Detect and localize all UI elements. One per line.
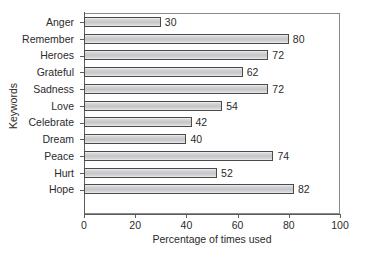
bar[interactable] — [84, 151, 273, 161]
x-axis-tick-label: 0 — [69, 219, 99, 232]
x-axis-tick-mark — [289, 214, 290, 218]
bar-row: 54 — [84, 98, 340, 115]
bar-value-label: 42 — [196, 114, 208, 130]
bar-row: 62 — [84, 64, 340, 81]
bar[interactable] — [84, 101, 222, 111]
bar[interactable] — [84, 34, 289, 44]
x-axis-tick-mark — [135, 214, 136, 218]
x-axis-tick-label: 60 — [223, 219, 253, 232]
bar-row: 30 — [84, 14, 340, 31]
y-axis-title: Keywords — [7, 71, 19, 141]
bar-row: 40 — [84, 131, 340, 148]
bar-value-label: 82 — [298, 181, 310, 197]
x-axis-tick-mark — [84, 214, 85, 218]
bar[interactable] — [84, 17, 161, 27]
bar[interactable] — [84, 168, 217, 178]
y-axis-tick-label: Remember — [0, 31, 80, 48]
y-axis-tick-label: Hope — [0, 181, 80, 198]
bar-value-label: 40 — [190, 131, 202, 147]
bar-row: 42 — [84, 114, 340, 131]
x-axis-tick-label: 40 — [171, 219, 201, 232]
bar-chart: AngerRememberHeroesGratefulSadnessLoveCe… — [0, 0, 370, 260]
bar-value-label: 52 — [221, 165, 233, 181]
bar[interactable] — [84, 117, 192, 127]
bars-layer: 3080726272544240745282 — [84, 13, 340, 214]
bar[interactable] — [84, 184, 294, 194]
x-axis-tick-label: 80 — [274, 219, 304, 232]
x-axis-tick-mark — [238, 214, 239, 218]
x-axis-tick-mark — [340, 214, 341, 218]
y-axis-tick-label: Anger — [0, 14, 80, 31]
x-axis-tick-mark — [186, 214, 187, 218]
bar[interactable] — [84, 67, 243, 77]
x-axis-tick-label: 20 — [120, 219, 150, 232]
y-axis-tick-label: Heroes — [0, 47, 80, 64]
bar-row: 82 — [84, 181, 340, 198]
bar-value-label: 72 — [272, 47, 284, 63]
bar-value-label: 30 — [165, 14, 177, 30]
bar-row: 80 — [84, 31, 340, 48]
bar-row: 72 — [84, 81, 340, 98]
bar[interactable] — [84, 134, 186, 144]
bar-row: 52 — [84, 165, 340, 182]
bar-row: 72 — [84, 47, 340, 64]
x-axis-title: Percentage of times used — [84, 233, 340, 245]
x-axis-tick-label: 100 — [325, 219, 355, 232]
y-axis-tick-label: Hurt — [0, 165, 80, 182]
bar-value-label: 54 — [226, 98, 238, 114]
bar-value-label: 74 — [277, 148, 289, 164]
bar-value-label: 72 — [272, 81, 284, 97]
bar-row: 74 — [84, 148, 340, 165]
bar-value-label: 80 — [293, 31, 305, 47]
y-axis-tick-label: Peace — [0, 148, 80, 165]
bar-value-label: 62 — [247, 64, 259, 80]
bar[interactable] — [84, 50, 268, 60]
bar[interactable] — [84, 84, 268, 94]
